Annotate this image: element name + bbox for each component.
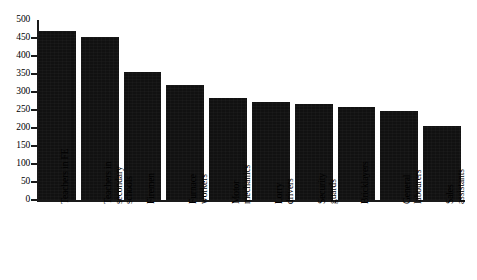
- y-axis-tick-labels: 050100150200250300350400450500: [0, 0, 30, 280]
- y-tick-label: 100: [0, 159, 30, 169]
- x-category-label-line: drivers: [284, 178, 295, 204]
- bar-chart: 050100150200250300350400450500 Teachers …: [0, 0, 477, 280]
- y-tick-label: 250: [0, 105, 30, 115]
- x-category-label: Teachers insecondaryschools: [103, 162, 135, 204]
- y-tick-label: 350: [0, 69, 30, 79]
- y-tick-label: 450: [0, 33, 30, 43]
- x-category-label: Firemen: [146, 173, 157, 204]
- y-tick-mark: [31, 55, 37, 57]
- y-tick-mark: [31, 91, 37, 93]
- y-tick-mark: [31, 37, 37, 39]
- x-category-label: Furnaceworkers: [188, 174, 209, 204]
- y-tick-mark: [31, 127, 37, 129]
- x-category-label-line: Teachers in: [103, 162, 114, 204]
- x-category-label: Teachers in FE: [60, 149, 71, 204]
- x-category-label-line: Firemen: [146, 173, 157, 204]
- x-category-label-line: assistants: [456, 169, 467, 204]
- x-category-label-line: Sales: [445, 169, 456, 204]
- y-tick-mark: [31, 199, 37, 201]
- y-tick-label: 500: [0, 15, 30, 25]
- y-tick-mark: [31, 73, 37, 75]
- y-tick-label: 50: [0, 177, 30, 187]
- x-category-label-line: Lorry: [274, 178, 285, 204]
- y-tick-label: 400: [0, 51, 30, 61]
- x-category-label: Motormechanics: [231, 165, 252, 204]
- x-category-label-line: schools: [124, 162, 135, 204]
- y-tick-mark: [31, 145, 37, 147]
- x-category-label-line: labourers: [413, 170, 424, 204]
- x-category-label-line: Teachers in FE: [60, 149, 71, 204]
- x-category-label-line: workers: [199, 174, 210, 204]
- x-category-label-line: Security: [317, 173, 328, 204]
- x-category-label-line: Motor: [231, 165, 242, 204]
- y-tick-label: 200: [0, 123, 30, 133]
- x-category-label-line: Furnace: [188, 174, 199, 204]
- y-tick-mark: [31, 181, 37, 183]
- y-tick-label: 0: [0, 195, 30, 205]
- y-tick-label: 300: [0, 87, 30, 97]
- y-tick-mark: [31, 109, 37, 111]
- x-category-label: Salesassistants: [445, 169, 466, 204]
- x-category-label-line: secondary: [113, 162, 124, 204]
- x-category-label: Lorrydrivers: [274, 178, 295, 204]
- y-tick-label: 150: [0, 141, 30, 151]
- y-tick-mark: [31, 163, 37, 165]
- x-category-label: Bricklayers: [360, 161, 371, 204]
- x-category-label: Generallabourers: [402, 170, 423, 204]
- x-category-label: Securityguards: [317, 173, 338, 204]
- x-category-label-line: mechanics: [242, 165, 253, 204]
- x-category-label-line: General: [402, 170, 413, 204]
- x-category-label-line: guards: [327, 173, 338, 204]
- x-category-label-line: Bricklayers: [360, 161, 371, 204]
- x-axis-category-labels: Teachers in FETeachers insecondaryschool…: [37, 204, 465, 280]
